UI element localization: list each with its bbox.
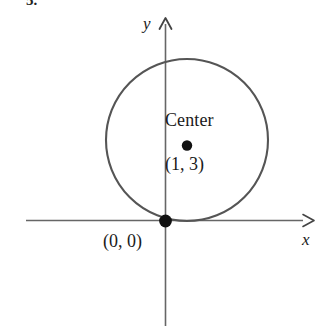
- origin-coordinates-label: (0, 0): [103, 232, 142, 250]
- x-axis-label: x: [302, 231, 310, 248]
- y-axis-label: y: [143, 15, 151, 32]
- origin-point-marker: [159, 215, 172, 228]
- x-axis-arrow-icon: [303, 215, 314, 227]
- circle-shape: [106, 59, 268, 221]
- center-text-label: Center: [165, 111, 214, 129]
- figure-canvas: [0, 0, 322, 330]
- center-coordinates-label: (1, 3): [165, 155, 204, 173]
- circle-figure: 5. y x Center (1, 3) (0, 0): [0, 0, 322, 330]
- problem-number: 5.: [26, 0, 37, 8]
- center-point-marker: [182, 140, 192, 150]
